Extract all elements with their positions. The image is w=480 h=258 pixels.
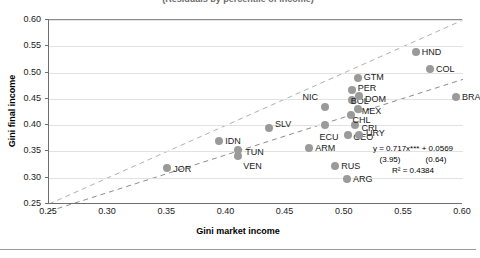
x-tick-label: 0.35 [158, 206, 176, 216]
data-point-label: HND [422, 47, 442, 57]
y-tick-label: 0.50 [0, 67, 41, 77]
data-point-label: GTM [364, 72, 384, 82]
regression-equation: y = 0.717x*** + 0.0569 [352, 143, 474, 154]
y-tick-mark [45, 177, 48, 178]
y-tick-mark [45, 150, 48, 151]
data-point[interactable] [234, 152, 242, 160]
y-tick-label: 0.55 [0, 40, 41, 50]
y-tick-label: 0.40 [0, 119, 41, 129]
data-point-label: PER [358, 83, 377, 93]
x-tick-label: 0.55 [394, 206, 412, 216]
data-point[interactable] [343, 175, 351, 183]
x-tick-label: 0.45 [276, 206, 294, 216]
y-axis-title: Gini final income [7, 75, 17, 148]
x-tick-label: 0.60 [453, 206, 471, 216]
y-tick-mark [45, 98, 48, 99]
data-point[interactable] [321, 103, 329, 111]
x-tick-label: 0.50 [335, 206, 353, 216]
chart-title-strip: (Residuals by percentile of income) [0, 0, 476, 7]
data-point-label: MEX [362, 106, 382, 116]
data-point-label: JOR [173, 164, 191, 174]
y-tick-label: 0.35 [0, 145, 41, 155]
x-axis-title: Gini market income [0, 226, 476, 236]
data-point-label: CHL [353, 115, 371, 125]
y-tick-mark [45, 19, 48, 20]
data-point[interactable] [348, 86, 356, 94]
gridline [49, 99, 463, 100]
data-point-label: NIC [303, 92, 319, 102]
reference-lines [49, 20, 463, 204]
x-tick-label: 0.25 [39, 206, 57, 216]
data-point[interactable] [215, 137, 223, 145]
chart-title: (Residuals by percentile of income) [0, 0, 476, 4]
se-intercept: (0.64) [413, 154, 459, 165]
se-slope: (3.95) [367, 154, 413, 165]
bottom-rule [0, 249, 476, 250]
gridline [49, 178, 463, 179]
data-point-label: ARM [315, 143, 335, 153]
data-point[interactable] [305, 144, 313, 152]
y-tick-mark [45, 72, 48, 73]
data-point[interactable] [426, 65, 434, 73]
y-tick-label: 0.60 [0, 14, 41, 24]
x-axis-line [48, 203, 462, 204]
data-point[interactable] [412, 48, 420, 56]
y-tick-label: 0.45 [0, 93, 41, 103]
forty-five-degree-line [49, 20, 463, 204]
x-tick-label: 0.30 [98, 206, 116, 216]
r-squared: R² = 0.4384 [352, 165, 474, 176]
data-point-label: TUN [245, 147, 264, 157]
data-point[interactable] [331, 162, 339, 170]
data-point[interactable] [163, 164, 171, 172]
data-point-label: DOM [365, 94, 386, 104]
data-point-label: SLV [275, 119, 291, 129]
data-point-label: ECU [320, 132, 339, 142]
data-point-label: BRA [462, 92, 480, 102]
y-tick-label: 0.25 [0, 198, 41, 208]
data-point[interactable] [452, 93, 460, 101]
data-point-label: COL [436, 64, 455, 74]
x-tick-label: 0.40 [217, 206, 235, 216]
y-tick-mark [45, 45, 48, 46]
gridline [49, 125, 463, 126]
y-axis-title-wrapper: Gini final income [10, 0, 24, 222]
data-point[interactable] [265, 124, 273, 132]
gridline [49, 73, 463, 74]
y-tick-mark [45, 124, 48, 125]
data-point-label: IDN [225, 136, 241, 146]
gridline [49, 46, 463, 47]
regression-standard-errors: (3.95)(0.64) [352, 154, 474, 165]
y-tick-label: 0.30 [0, 172, 41, 182]
gridline [49, 20, 463, 21]
y-tick-mark [45, 203, 48, 204]
data-point-label: VEN [243, 161, 262, 171]
data-point[interactable] [344, 131, 352, 139]
regression-annotation: y = 0.717x*** + 0.0569 (3.95)(0.64) R² =… [352, 143, 474, 176]
data-point[interactable] [321, 121, 329, 129]
data-point[interactable] [354, 105, 362, 113]
data-point[interactable] [354, 74, 362, 82]
